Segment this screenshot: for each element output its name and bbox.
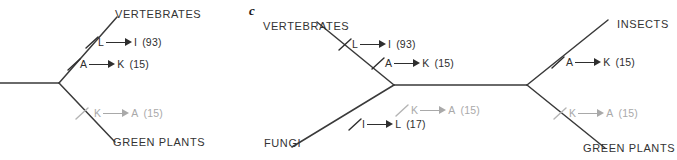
right-sub6-from: K [569, 107, 576, 119]
right-sub3-count: (15) [460, 104, 479, 116]
left-sub3-from: K [94, 107, 101, 119]
right-arrow-icon [394, 59, 420, 68]
left-tree-vertebrates-branch [59, 17, 117, 83]
left-sub2-from: A [80, 58, 87, 70]
left-sub3-count: (15) [143, 107, 162, 119]
right-arrow-icon [578, 109, 604, 118]
right-substitution-K-to-A-fungi: K A (15) [411, 104, 480, 116]
right-tree-fungi-branch [292, 85, 394, 147]
left-tick-A-to-K [68, 59, 80, 70]
right-sub2-to: K [422, 57, 429, 69]
right-tick-I-to-L [349, 119, 361, 130]
left-sub2-to: K [117, 58, 124, 70]
right-substitution-A-to-K: A K (15) [385, 57, 454, 69]
right-sub1-to: I [388, 38, 391, 50]
right-sub5-from: A [566, 56, 573, 68]
right-sub2-from: A [385, 57, 392, 69]
right-arrow-icon [360, 40, 386, 49]
right-arrow-icon [89, 60, 115, 69]
right-taxon-fungi: FUNGI [264, 137, 301, 149]
right-sub4-from: I [362, 118, 365, 130]
right-taxon-insects: INSECTS [617, 18, 669, 30]
right-sub6-count: (15) [618, 107, 637, 119]
left-sub1-from: L [98, 36, 104, 48]
right-arrow-icon [420, 106, 446, 115]
right-tree-insects-branch [527, 20, 608, 85]
right-sub4-count: (17) [406, 118, 425, 130]
right-tick-insects-A-to-K [552, 57, 564, 68]
right-tick-K-to-A-greenplants-faded [554, 108, 566, 119]
right-sub1-count: (93) [396, 38, 415, 50]
right-arrow-icon [106, 38, 132, 47]
right-sub4-to: L [395, 118, 401, 130]
right-sub3-from: K [411, 104, 418, 116]
right-substitution-L-to-I: L I (93) [352, 38, 416, 50]
right-sub2-count: (15) [434, 57, 453, 69]
left-substitution-K-to-A: K A (15) [94, 107, 163, 119]
left-sub3-to: A [131, 107, 138, 119]
right-taxon-green-plants: GREEN PLANTS [583, 142, 675, 154]
right-substitution-A-to-K-insects: A K (15) [566, 56, 635, 68]
right-sub1-from: L [352, 38, 358, 50]
right-substitution-K-to-A-greenplants: K A (15) [569, 107, 638, 119]
left-sub1-to: I [134, 36, 137, 48]
right-arrow-icon [103, 109, 129, 118]
right-substitution-I-to-L: I L (17) [362, 118, 426, 130]
left-substitution-A-to-K: A K (15) [80, 58, 149, 70]
phylogenetic-tree-figure: VERTEBRATES GREEN PLANTS L I (93) A K (1… [0, 0, 677, 160]
right-taxon-vertebrates: VERTEBRATES [263, 20, 349, 32]
left-taxon-green-plants: GREEN PLANTS [113, 136, 205, 148]
left-sub1-count: (93) [142, 36, 161, 48]
left-substitution-L-to-I: L I (93) [98, 36, 162, 48]
right-tick-A-to-K [372, 58, 384, 69]
right-sub6-to: A [606, 107, 613, 119]
left-tick-K-to-A-faded [76, 108, 88, 119]
left-sub2-count: (15) [129, 58, 148, 70]
right-arrow-icon [575, 58, 601, 67]
panel-letter-c: c [249, 3, 255, 19]
right-sub3-to: A [448, 104, 455, 116]
right-arrow-icon [367, 120, 393, 129]
left-taxon-vertebrates: VERTEBRATES [115, 8, 201, 20]
right-sub5-to: K [603, 56, 610, 68]
right-sub5-count: (15) [615, 56, 634, 68]
right-tick-K-to-A-fungi-faded [396, 105, 408, 116]
